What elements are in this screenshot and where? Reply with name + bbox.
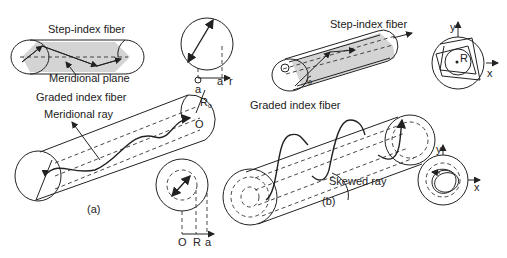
panel-b-caption: (b) — [322, 195, 335, 207]
step-index-fiber-a — [11, 40, 144, 75]
meridional-plane-label: Meridional plane — [49, 72, 130, 84]
graded-end-r-sub: o — [208, 102, 212, 109]
graded-cross-section-a — [156, 159, 214, 234]
graded-end-r-label: R — [200, 96, 208, 108]
graded-index-fiber-a — [15, 90, 215, 201]
step-index-fiber-b — [272, 30, 412, 91]
skewed-ray-label: Skewed ray — [329, 175, 387, 187]
graded-outer-label-a: a — [205, 236, 212, 248]
graded-index-fiber-b — [223, 115, 435, 225]
step-index-fiber-label-a: Step-index fiber — [48, 23, 125, 35]
step-cross-section-a — [181, 18, 233, 83]
graded-end-origin-label: O — [195, 118, 204, 130]
step-index-fiber-label-b: Step-index fiber — [330, 18, 407, 30]
panel-a: Step-index fiber Meridional plane a r — [11, 18, 233, 248]
angle-theta-label: θ — [308, 79, 312, 86]
graded-end-a-label: a — [195, 83, 202, 95]
meridional-ray-label: Meridional ray — [44, 108, 114, 120]
panel-a-caption: (a) — [87, 203, 100, 215]
fiber-ray-diagram: Step-index fiber Meridional plane a r — [0, 0, 507, 258]
graded-inner-label-a: R — [193, 236, 201, 248]
graded-index-fiber-label-a: Graded index fiber — [36, 91, 127, 103]
step-radius-label-a: a — [217, 75, 224, 87]
y-axis-label-b2: y — [436, 143, 442, 155]
caustic-r-label: R — [460, 52, 468, 64]
panel-b: Step-index fiber θ y x R — [223, 18, 498, 225]
r-axis-label: r — [229, 75, 233, 87]
graded-origin-label-a: O — [178, 236, 187, 248]
y-axis-label-b1: y — [450, 21, 456, 33]
x-axis-label-b2: x — [474, 181, 480, 193]
x-axis-label-b1: x — [487, 67, 493, 79]
graded-index-fiber-label-b: Graded index fiber — [250, 99, 341, 111]
graded-cross-section-b — [418, 145, 480, 205]
